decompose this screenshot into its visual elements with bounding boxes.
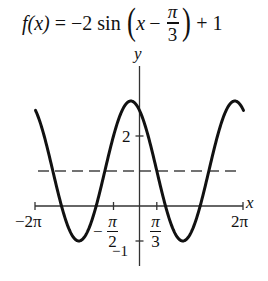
y-tick-label-2: 2 bbox=[122, 128, 131, 145]
x-tick-label-2pi: 2π bbox=[231, 213, 248, 230]
x-tick-label-neg-half-pi: π 2 bbox=[107, 213, 118, 250]
x-tick-label-neg-sign: − bbox=[93, 223, 103, 240]
x-tick-label-pi-third: π 3 bbox=[150, 213, 161, 250]
tick-fraction-numerator: π bbox=[151, 213, 160, 230]
x-axis-label: x bbox=[246, 194, 254, 211]
x-tick-label-neg-2pi: −2π bbox=[15, 213, 42, 230]
tick-fraction-denominator: 3 bbox=[151, 233, 160, 250]
tick-fraction-denominator: 2 bbox=[108, 233, 117, 250]
function-graph bbox=[0, 0, 268, 281]
tick-fraction-numerator: π bbox=[108, 213, 117, 230]
y-axis-label: y bbox=[134, 45, 142, 62]
